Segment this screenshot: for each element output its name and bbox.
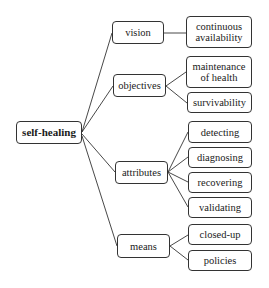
node-vision: vision [112,21,164,44]
node-maintenance-of-health: maintenance of health [186,56,252,88]
node-objectives: objectives [113,74,166,97]
node-survivability: survivability [187,92,252,113]
node-policies: policies [188,250,252,271]
node-closed-up: closed-up [188,224,252,245]
node-self-healing: self-healing [16,121,82,144]
node-recovering: recovering [188,172,252,193]
node-diagnosing: diagnosing [188,147,252,168]
node-validating: validating [188,197,252,218]
node-attributes: attributes [115,161,168,184]
node-continuous-availability: continuous availability [186,16,252,48]
node-means: means [117,234,170,258]
node-detecting: detecting [188,121,252,143]
